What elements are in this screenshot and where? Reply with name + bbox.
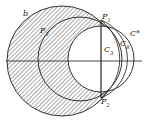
label-b: b <box>23 10 28 18</box>
circle-diagram <box>0 0 152 126</box>
label-c8: C8 <box>120 40 129 51</box>
label-c-star: C* <box>130 30 140 38</box>
label-p3: P3 <box>40 27 49 38</box>
label-p1: P1 <box>102 13 111 24</box>
label-c3: C3 <box>104 46 113 57</box>
label-p2: P2 <box>101 98 110 109</box>
